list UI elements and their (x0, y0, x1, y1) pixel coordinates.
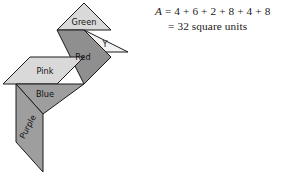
piece-label-red: Red (75, 52, 91, 62)
piece-label-green: Green (72, 17, 97, 27)
tangram-figure: Green Y Red Pink Blue Purple A = 4 + 6 +… (0, 0, 286, 179)
equation-line-first: A = 4 + 6 + 2 + 8 + 4 + 8 (155, 4, 283, 19)
piece-label-blue: Blue (36, 89, 54, 99)
piece-label-pink: Pink (37, 66, 54, 76)
area-equation: A = 4 + 6 + 2 + 8 + 4 + 8 = 32 square un… (155, 4, 283, 34)
piece-label-y: Y (101, 39, 108, 49)
equation-line-second: = 32 square units (155, 19, 283, 34)
